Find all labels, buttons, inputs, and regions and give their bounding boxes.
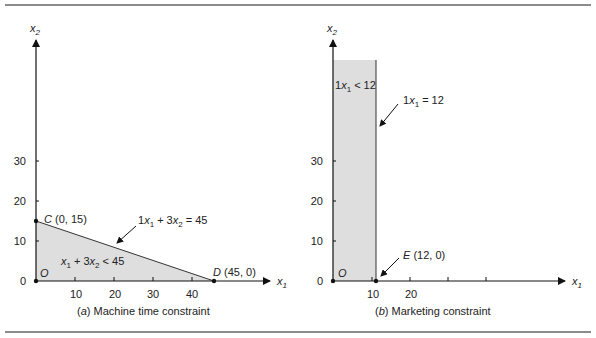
y-tick-label-a: 30	[14, 155, 26, 167]
y-tick-label-a: 20	[14, 195, 26, 207]
annotation-arrow-e	[381, 258, 399, 276]
y-tick-label-b: 30	[311, 155, 323, 167]
y-tick-label-b: 10	[311, 235, 323, 247]
annotation-arrow-a	[117, 226, 136, 243]
caption-b: (b) Marketing constraint	[375, 305, 491, 317]
figure-canvas: x2 x1 0 10 20 30 10 20 30 40 O C (0, 15)…	[0, 0, 596, 338]
panel-a-machine-time: x2 x1 0 10 20 30 10 20 30 40 O C (0, 15)…	[14, 22, 287, 317]
point-c	[34, 219, 38, 223]
y-axis-label-a: x2	[29, 22, 41, 37]
point-d-label: D (45, 0)	[213, 266, 256, 278]
constraint-equation-a: 1x1 + 3x2 = 45	[138, 214, 207, 229]
point-e-label: E (12, 0)	[403, 249, 445, 261]
y-axis-label-b: x2	[326, 22, 338, 37]
x-tick-label-a: 10	[70, 288, 82, 300]
feasible-region-b	[333, 60, 376, 281]
y-tick-label-a: 0	[20, 275, 26, 287]
x-tick-label-a: 30	[147, 288, 159, 300]
origin-label-a: O	[40, 267, 49, 279]
x-axis-label-b: x1	[571, 275, 582, 290]
y-tick-label-b: 20	[311, 195, 323, 207]
caption-a: (a) Machine time constraint	[77, 305, 210, 317]
constraint-equation-b: 1x1 = 12	[403, 94, 444, 109]
x-tick-label-b: 10	[367, 288, 379, 300]
x-tick-label-a: 20	[109, 288, 121, 300]
point-d	[212, 279, 216, 283]
x-tick-label-b: 20	[405, 288, 417, 300]
y-tick-label-a: 10	[14, 235, 26, 247]
panel-b-marketing: x2 x1 0 10 20 30 10 20 O E (12, 0) 1x1 =…	[311, 22, 582, 317]
point-c-label: C (0, 15)	[44, 213, 87, 225]
point-origin-b	[331, 279, 335, 283]
annotation-arrow-b	[380, 104, 398, 126]
x-axis-label-a: x1	[276, 275, 287, 290]
point-origin-a	[34, 279, 38, 283]
origin-label-b: O	[338, 267, 347, 279]
y-tick-label-b: 0	[317, 275, 323, 287]
x-tick-label-a: 40	[186, 288, 198, 300]
point-e	[374, 279, 378, 283]
